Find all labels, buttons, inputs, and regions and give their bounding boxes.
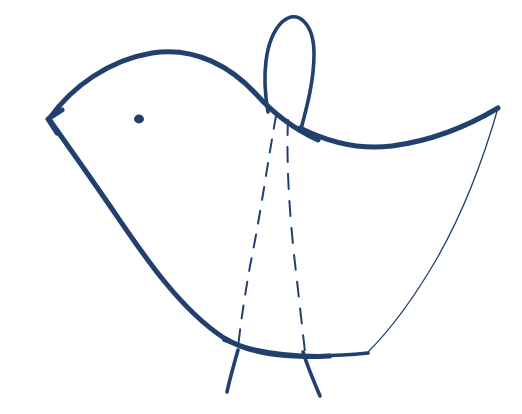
eye-icon (134, 115, 144, 124)
bird-drawing (0, 0, 522, 414)
artboard (0, 0, 522, 414)
